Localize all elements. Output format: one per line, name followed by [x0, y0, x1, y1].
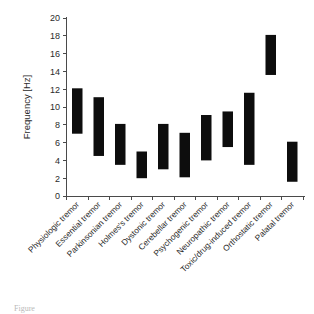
range-bar	[287, 142, 298, 182]
range-bar	[266, 35, 277, 75]
range-bar	[158, 124, 169, 169]
range-bar	[244, 93, 255, 165]
y-tick-label: 18	[50, 31, 60, 41]
y-tick-label: 14	[50, 67, 60, 77]
range-bar	[201, 115, 212, 160]
range-bar	[180, 133, 191, 178]
y-tick-label: 4	[55, 156, 60, 166]
y-tick-label: 16	[50, 49, 60, 59]
y-tick-label: 2	[55, 174, 60, 184]
y-tick-label: 12	[50, 85, 60, 95]
y-tick-label: 6	[55, 138, 60, 148]
y-tick-label: 20	[50, 13, 60, 23]
range-bar	[137, 152, 148, 179]
y-tick-label: 8	[55, 120, 60, 130]
figure-container: 20181614121086420Frequency [Hz]Physiolog…	[0, 0, 314, 314]
y-tick-label: 10	[50, 102, 60, 112]
range-bar	[223, 111, 234, 147]
y-axis-title: Frequency [Hz]	[21, 75, 32, 139]
range-bar	[72, 88, 83, 133]
range-bar	[94, 97, 105, 156]
tremor-frequency-range-chart: 20181614121086420Frequency [Hz]Physiolog…	[0, 0, 314, 314]
figure-caption: Figure	[14, 304, 35, 313]
y-tick-label: 0	[55, 191, 60, 201]
range-bar	[115, 124, 126, 165]
